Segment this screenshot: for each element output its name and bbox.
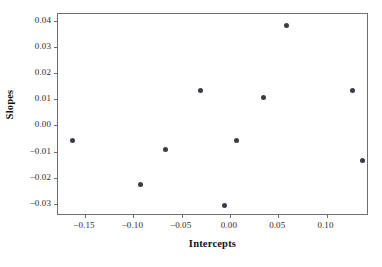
x-axis-tick [230, 214, 231, 218]
x-axis-tick-label: 0.10 [317, 221, 333, 230]
data-points-layer [58, 14, 367, 214]
y-axis-tick-label: −0.02 [30, 172, 51, 181]
x-axis-tick [133, 214, 134, 218]
y-axis-tick [54, 47, 58, 48]
x-axis-tick [327, 214, 328, 218]
y-axis-tick [54, 73, 58, 74]
y-axis-tick-label: 0.00 [35, 120, 51, 129]
x-axis-tick-label: −0.15 [73, 221, 94, 230]
x-axis-tick-label: −0.05 [170, 221, 191, 230]
y-axis-tick [54, 178, 58, 179]
y-axis-tick-label: 0.01 [35, 94, 51, 103]
y-axis-tick [54, 204, 58, 205]
data-point [70, 138, 75, 143]
y-axis-tick-label: −0.03 [30, 199, 51, 208]
data-point [234, 138, 239, 143]
x-axis-tick-labels: −0.15−0.10−0.050.000.050.10 [57, 221, 368, 233]
data-point [163, 147, 168, 152]
y-axis-tick [54, 99, 58, 100]
y-axis-tick-label: −0.01 [30, 146, 51, 155]
x-axis-tick-label: 0.05 [269, 221, 285, 230]
data-point [222, 203, 227, 208]
data-point [350, 88, 355, 93]
y-axis-tick [54, 125, 58, 126]
y-axis-tick-label: 0.03 [35, 41, 51, 50]
x-axis-tick [85, 214, 86, 218]
data-point [198, 88, 203, 93]
y-axis-tick [54, 152, 58, 153]
x-axis-tick-label: 0.00 [221, 221, 237, 230]
scatter-plot-figure: Slopes 0.040.030.020.010.00−0.01−0.02−0.… [0, 0, 382, 267]
plot-area [57, 13, 368, 215]
data-point [284, 23, 289, 28]
x-axis-tick [182, 214, 183, 218]
x-axis-tick [278, 214, 279, 218]
y-axis-tick-label: 0.02 [35, 68, 51, 77]
data-point [360, 158, 365, 163]
data-point [138, 182, 143, 187]
y-axis-tick-label: 0.04 [35, 15, 51, 24]
data-point [261, 95, 266, 100]
x-axis-tick-label: −0.10 [122, 221, 143, 230]
x-axis-title: Intercepts [57, 238, 368, 249]
y-axis-tick [54, 21, 58, 22]
y-axis-tick-labels: 0.040.030.020.010.00−0.01−0.02−0.03 [0, 13, 51, 215]
